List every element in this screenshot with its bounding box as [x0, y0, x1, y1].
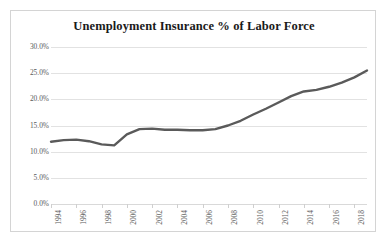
- x-axis-tick-mark: [127, 204, 128, 208]
- x-axis-tick-label: 2018: [358, 210, 365, 225]
- x-axis-tick-mark: [304, 204, 305, 208]
- x-axis-tick-mark: [228, 204, 229, 208]
- x-axis-tick-mark: [177, 204, 178, 208]
- x-axis-tick-mark: [51, 204, 52, 208]
- x-axis-tick-mark: [253, 204, 254, 208]
- x-axis-tick-label: 2008: [231, 210, 238, 225]
- x-axis-tick-mark: [102, 204, 103, 208]
- x-axis-tick-label: 2004: [181, 210, 188, 225]
- x-axis-tick-label: 2010: [257, 210, 264, 225]
- x-axis-tick-mark: [203, 204, 204, 208]
- x-axis-tick-label: 2012: [282, 210, 289, 225]
- series-line-chart: [11, 11, 377, 233]
- x-axis-tick-label: 1994: [55, 210, 62, 225]
- x-axis-tick-mark: [279, 204, 280, 208]
- chart-container: Unemployment Insurance % of Labor Force …: [10, 10, 376, 232]
- x-axis-tick-mark: [152, 204, 153, 208]
- x-axis-tick-mark: [76, 204, 77, 208]
- x-axis-tick-label: 2000: [130, 210, 137, 225]
- x-axis-tick-label: 2006: [206, 210, 213, 225]
- x-axis-tick-label: 1996: [80, 210, 87, 225]
- x-axis-tick-label: 1998: [105, 210, 112, 225]
- series-line-unemployment-insurance: [51, 71, 367, 146]
- x-axis-tick-mark: [329, 204, 330, 208]
- x-axis-tick-label: 2016: [333, 210, 340, 225]
- x-axis-tick-mark: [354, 204, 355, 208]
- x-axis-tick-label: 2002: [156, 210, 163, 225]
- x-axis-tick-label: 2014: [307, 210, 314, 225]
